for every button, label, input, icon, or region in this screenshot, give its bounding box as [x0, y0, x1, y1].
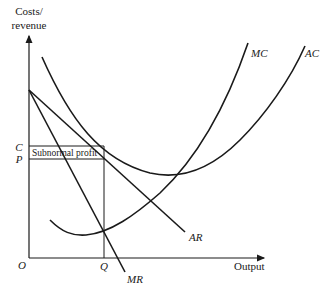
ar-label: AR	[188, 231, 203, 243]
q-label: Q	[100, 260, 108, 272]
mr-curve	[29, 90, 125, 272]
mc-curve	[50, 43, 248, 235]
mc-label: MC	[250, 47, 268, 59]
y-axis-label-line1: Costs/	[15, 5, 43, 17]
economics-diagram: Costs/ revenue C P Subnormal profit O Q …	[0, 0, 327, 292]
p-label: P	[15, 153, 23, 165]
origin-label: O	[18, 259, 26, 271]
mr-label: MR	[126, 273, 143, 285]
subnormal-profit-label: Subnormal profit	[32, 148, 98, 158]
ac-label: AC	[304, 47, 320, 59]
x-axis-label: Output	[234, 260, 265, 272]
ar-curve	[29, 90, 185, 232]
y-axis-label-line2: revenue	[12, 19, 47, 31]
c-label: C	[15, 141, 23, 153]
